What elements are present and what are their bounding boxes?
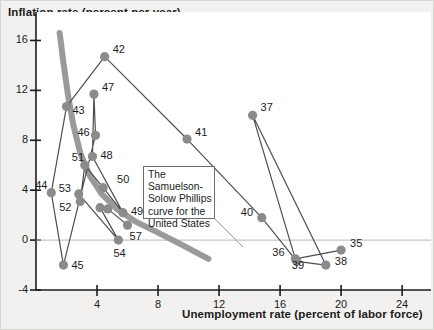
data-point-marker <box>114 235 123 244</box>
x-tick-label: 24 <box>387 298 417 310</box>
data-point-label: 54 <box>113 247 125 259</box>
data-point-label: 48 <box>100 149 112 161</box>
data-point-marker <box>74 189 83 198</box>
data-point-label: 50 <box>117 173 129 185</box>
data-point-label: 42 <box>113 43 125 55</box>
data-point-marker <box>99 183 108 192</box>
callout-box: The Samuelson-Solow Phillips curve for t… <box>143 166 215 219</box>
x-tick-label: 8 <box>143 298 173 310</box>
data-point-label: 37 <box>261 101 273 113</box>
y-tick-label: 16 <box>8 33 28 45</box>
data-point-label: 53 <box>59 182 71 194</box>
data-point-marker <box>248 111 257 120</box>
data-point-label: 46 <box>77 126 89 138</box>
data-point-label: 57 <box>130 230 142 242</box>
data-point-label: 38 <box>335 255 347 267</box>
x-tick-label: 20 <box>326 298 356 310</box>
data-point-marker <box>257 213 266 222</box>
data-point-marker <box>336 245 345 254</box>
figure-container: Inflation rate (percent per year) Unempl… <box>0 0 434 330</box>
y-tick-label: 12 <box>8 83 28 95</box>
data-point-label: 45 <box>71 259 83 271</box>
data-point-marker <box>103 204 112 213</box>
data-point-label: 41 <box>195 126 207 138</box>
y-tick-label: -4 <box>8 283 28 295</box>
data-point-marker <box>62 102 71 111</box>
data-point-label: 39 <box>292 259 304 271</box>
data-point-marker <box>47 188 56 197</box>
data-point-label: 49 <box>131 205 143 217</box>
data-point-label: 47 <box>102 81 114 93</box>
data-point-label: 40 <box>241 206 253 218</box>
data-point-marker <box>100 52 109 61</box>
data-point-marker <box>88 152 97 161</box>
data-point-marker <box>182 134 191 143</box>
data-point-marker <box>321 260 330 269</box>
callout-text: The Samuelson-Solow Phillips curve for t… <box>148 169 214 230</box>
y-tick-label: 4 <box>8 183 28 195</box>
x-tick-label: 16 <box>265 298 295 310</box>
y-tick-label: 0 <box>8 233 28 245</box>
data-point-label: 52 <box>59 201 71 213</box>
x-tick-label: 12 <box>204 298 234 310</box>
data-point-marker <box>123 221 132 230</box>
y-tick-label: 8 <box>8 133 28 145</box>
data-point-label: 44 <box>35 179 47 191</box>
data-point-label: 35 <box>350 237 362 249</box>
data-point-marker <box>118 208 127 217</box>
data-point-marker <box>59 260 68 269</box>
data-point-marker <box>91 131 100 140</box>
data-point-label: 51 <box>72 151 84 163</box>
data-point-label: 36 <box>272 246 284 258</box>
data-point-label: 43 <box>73 104 85 116</box>
x-tick-label: 4 <box>82 298 112 310</box>
phillips-curve-plot <box>0 0 434 330</box>
data-point-marker <box>89 90 98 99</box>
